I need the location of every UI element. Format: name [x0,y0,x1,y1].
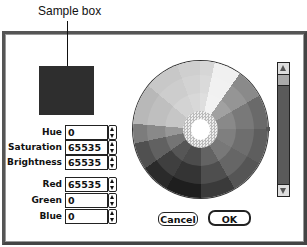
red-stepper[interactable] [108,177,117,192]
brightness-label: Brightness [7,156,62,167]
brightness-scrollbar[interactable] [277,62,290,197]
blue-label: Blue [7,210,62,221]
sample-box-caption: Sample box [38,3,101,18]
brightness-field[interactable]: 65535 [65,155,108,170]
green-field[interactable]: 0 [65,193,108,208]
blue-stepper[interactable] [108,209,117,224]
hue-label: Hue [7,126,62,137]
scroll-down-arrow-icon[interactable] [278,184,289,196]
scroll-thumb[interactable] [278,75,289,86]
saturation-field[interactable]: 65535 [65,140,108,155]
green-label: Green [7,194,62,205]
blue-field[interactable]: 0 [65,209,108,224]
color-wheel[interactable] [133,61,268,198]
brightness-stepper[interactable] [108,155,117,170]
green-stepper[interactable] [108,193,117,208]
red-field[interactable]: 65535 [65,177,108,192]
red-label: Red [7,178,62,189]
hue-field[interactable]: 0 [65,125,108,140]
wheel-selection-marker[interactable] [266,127,270,131]
hue-stepper[interactable] [108,125,117,140]
ok-button[interactable]: OK [208,210,251,226]
cancel-button[interactable]: Cancel [158,212,198,226]
saturation-label: Saturation [7,141,62,152]
saturation-stepper[interactable] [108,140,117,155]
scroll-up-arrow-icon[interactable] [278,63,289,75]
wheel-center [191,119,210,140]
sample-box [39,66,94,115]
